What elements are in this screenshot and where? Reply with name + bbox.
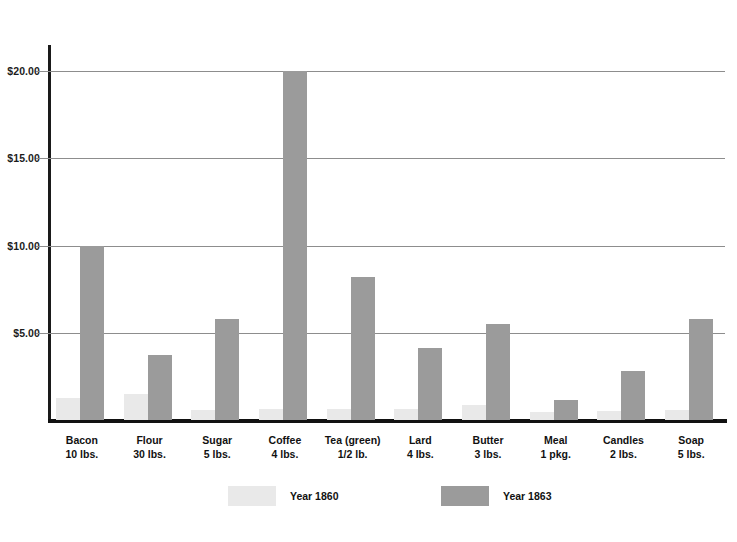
bar-group-sugar[interactable] xyxy=(191,45,239,420)
bar-group-tea-green[interactable] xyxy=(327,45,375,420)
bar-year-1860-meal[interactable] xyxy=(530,412,554,420)
x-axis-label-quantity: 1/2 lb. xyxy=(319,447,387,461)
x-axis-label-flour: Flour30 lbs. xyxy=(116,433,184,461)
y-tick-mark xyxy=(36,246,50,247)
x-axis-label-coffee: Coffee4 lbs. xyxy=(251,433,319,461)
bar-year-1860-lard[interactable] xyxy=(394,409,418,420)
y-tick-mark xyxy=(36,333,50,334)
x-axis-label-name: Candles xyxy=(603,434,644,446)
bar-chart: $5.00$10.00$15.00$20.00 Year 1860Year 18… xyxy=(0,0,737,542)
bar-group-candles[interactable] xyxy=(597,45,645,420)
bar-year-1863-sugar[interactable] xyxy=(215,319,239,420)
x-axis-label-soap: Soap5 lbs. xyxy=(657,433,725,461)
x-axis-label-name: Coffee xyxy=(269,434,302,446)
bar-group-coffee[interactable] xyxy=(259,45,307,420)
bar-group-meal[interactable] xyxy=(530,45,578,420)
x-axis-label-sugar: Sugar5 lbs. xyxy=(183,433,251,461)
bar-year-1860-tea-green[interactable] xyxy=(327,409,351,420)
x-axis-label-bacon: Bacon10 lbs. xyxy=(48,433,116,461)
bar-year-1863-flour[interactable] xyxy=(148,355,172,420)
y-tick-mark xyxy=(36,71,50,72)
x-axis-label-quantity: 5 lbs. xyxy=(183,447,251,461)
bar-year-1863-lard[interactable] xyxy=(418,348,442,420)
x-axis-label-meal: Meal1 pkg. xyxy=(522,433,590,461)
x-axis-label-name: Sugar xyxy=(202,434,232,446)
bar-group-lard[interactable] xyxy=(394,45,442,420)
bar-group-soap[interactable] xyxy=(665,45,713,420)
x-axis-label-name: Bacon xyxy=(66,434,98,446)
bar-group-butter[interactable] xyxy=(462,45,510,420)
x-axis-label-quantity: 10 lbs. xyxy=(48,447,116,461)
x-axis-label-name: Meal xyxy=(544,434,567,446)
y-tick-mark xyxy=(36,158,50,159)
bar-year-1860-bacon[interactable] xyxy=(56,398,80,420)
bar-group-flour[interactable] xyxy=(124,45,172,420)
x-axis-label-tea-green: Tea (green)1/2 lb. xyxy=(319,433,387,461)
x-axis-label-quantity: 4 lbs. xyxy=(251,447,319,461)
x-axis-label-butter: Butter3 lbs. xyxy=(454,433,522,461)
bar-year-1863-candles[interactable] xyxy=(621,371,645,420)
x-axis-label-quantity: 5 lbs. xyxy=(657,447,725,461)
legend-swatch-icon xyxy=(228,486,276,506)
bar-year-1860-butter[interactable] xyxy=(462,405,486,420)
x-axis-label-quantity: 3 lbs. xyxy=(454,447,522,461)
x-axis-label-name: Tea (green) xyxy=(325,434,381,446)
legend-item-year-1860[interactable]: Year 1860 xyxy=(228,486,338,506)
x-axis-label-quantity: 4 lbs. xyxy=(387,447,455,461)
x-axis-label-quantity: 1 pkg. xyxy=(522,447,590,461)
bar-year-1860-soap[interactable] xyxy=(665,410,689,420)
bar-year-1860-coffee[interactable] xyxy=(259,409,283,420)
bar-year-1863-bacon[interactable] xyxy=(80,246,104,420)
bar-year-1860-sugar[interactable] xyxy=(191,410,215,420)
chart-legend: Year 1860Year 1863 xyxy=(0,486,737,516)
plot-area xyxy=(48,45,725,420)
y-axis-labels: $5.00$10.00$15.00$20.00 xyxy=(0,0,40,542)
x-axis-label-quantity: 30 lbs. xyxy=(116,447,184,461)
bar-year-1863-tea-green[interactable] xyxy=(351,277,375,420)
bar-year-1863-soap[interactable] xyxy=(689,319,713,420)
bar-year-1863-coffee[interactable] xyxy=(283,71,307,420)
x-axis-label-name: Lard xyxy=(409,434,432,446)
legend-item-year-1863[interactable]: Year 1863 xyxy=(441,486,551,506)
bar-year-1863-butter[interactable] xyxy=(486,324,510,420)
bar-year-1860-flour[interactable] xyxy=(124,394,148,420)
x-axis-label-quantity: 2 lbs. xyxy=(590,447,658,461)
x-axis-label-name: Soap xyxy=(678,434,704,446)
legend-label: Year 1863 xyxy=(503,490,551,502)
legend-swatch-icon xyxy=(441,486,489,506)
bar-year-1860-candles[interactable] xyxy=(597,411,621,420)
bar-year-1863-meal[interactable] xyxy=(554,400,578,420)
bar-group-bacon[interactable] xyxy=(56,45,104,420)
x-axis-label-candles: Candles2 lbs. xyxy=(590,433,658,461)
x-axis-label-name: Flour xyxy=(136,434,162,446)
legend-label: Year 1860 xyxy=(290,490,338,502)
x-axis-label-name: Butter xyxy=(473,434,504,446)
x-axis-label-lard: Lard4 lbs. xyxy=(387,433,455,461)
